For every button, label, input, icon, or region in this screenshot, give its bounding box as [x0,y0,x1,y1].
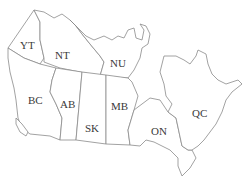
label-on: ON [151,126,167,137]
label-nu: NU [110,58,126,69]
label-mb: MB [111,101,128,112]
canada-map [0,0,251,179]
label-bc: BC [28,95,43,106]
label-nt: NT [55,50,70,61]
label-ab: AB [60,99,75,110]
label-sk: SK [85,123,99,134]
label-yt: YT [20,40,35,51]
label-qc: QC [192,108,207,119]
